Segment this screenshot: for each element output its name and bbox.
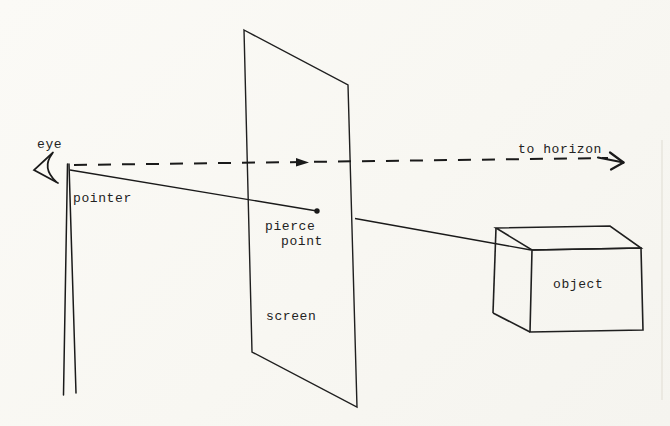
pointer-label: pointer [73, 192, 132, 206]
sight-line-screen-to-object [355, 219, 531, 251]
diagram-figure: eye pointer pierce point screen to horiz… [0, 0, 670, 426]
pierce-point-dot [314, 208, 319, 213]
screen-label: screen [266, 310, 316, 324]
eye-icon [34, 153, 58, 184]
pierce-point-label-line2: point [281, 235, 323, 249]
object-label: object [553, 278, 603, 292]
mid-arrowhead-icon [296, 158, 309, 167]
to-horizon-label: to horizon [518, 143, 602, 157]
diagram-canvas [0, 0, 670, 426]
horizon-dashed-line [74, 158, 608, 165]
pierce-point-label-line1: pierce [265, 220, 315, 234]
eye-label: eye [37, 138, 62, 152]
